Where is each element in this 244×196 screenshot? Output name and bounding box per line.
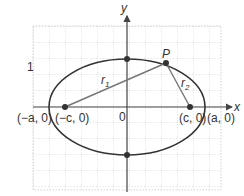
y-axis-label: y (120, 1, 128, 15)
ellipse-diagram: y x 0 P r1 r2 (−a, 0) (−c, 0) (c, 0) (a,… (0, 0, 244, 196)
left-focus-dot (62, 104, 68, 110)
bottom-vertex-dot (124, 152, 130, 158)
point-p-label: P (162, 47, 170, 61)
right-focus-dot (187, 104, 193, 110)
side-mark: 1 (27, 60, 34, 74)
right-focus-label: (c, 0) (179, 111, 206, 125)
left-vertex-label: (−a, 0) (17, 111, 52, 125)
origin-label: 0 (119, 110, 126, 124)
top-vertex-dot (124, 56, 130, 62)
right-vertex-label: (a, 0) (207, 111, 235, 125)
left-focus-label: (−c, 0) (55, 111, 89, 125)
